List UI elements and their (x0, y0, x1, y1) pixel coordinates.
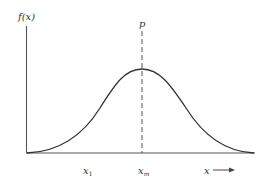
xm-label-subscript: m (144, 170, 150, 177)
bell-curve-diagram: f(x) p x1 xm x (0, 0, 267, 189)
x-axis-label: x (204, 165, 210, 176)
x1-label-subscript: 1 (89, 170, 93, 177)
x1-label: x1 (83, 165, 92, 177)
bell-curve (27, 69, 254, 153)
xm-label: xm (138, 165, 150, 177)
arrow-right-icon (229, 168, 235, 173)
diagram-canvas: f(x) p x1 xm x (0, 0, 267, 189)
y-axis-label: f(x) (17, 11, 35, 22)
peak-label: p (139, 18, 146, 29)
